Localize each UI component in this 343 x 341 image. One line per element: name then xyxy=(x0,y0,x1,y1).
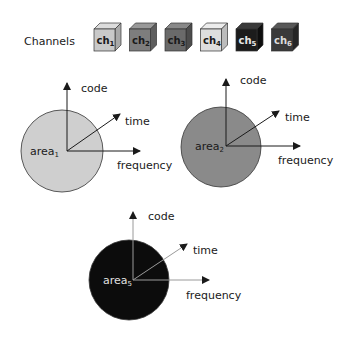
channels-label: Channels xyxy=(24,35,75,48)
channel-area-diagram: Channels ch1ch2ch3ch4ch5ch6 codetimefreq… xyxy=(0,0,343,341)
diagram-area-5: codetimefrequencyarea5 xyxy=(89,210,242,320)
channel-cube-4: ch4 xyxy=(201,23,228,51)
code-axis-label: code xyxy=(148,210,175,223)
area-diagrams: codetimefrequencyarea1codetimefrequencya… xyxy=(21,74,334,320)
code-axis-label: code xyxy=(240,74,267,87)
frequency-axis-label: frequency xyxy=(117,159,173,172)
time-axis-label: time xyxy=(285,111,310,124)
channel-cube-5: ch5 xyxy=(236,23,263,51)
channel-cube-2: ch2 xyxy=(130,23,157,51)
channel-cube-6: ch6 xyxy=(272,23,299,51)
channel-cubes: ch1ch2ch3ch4ch5ch6 xyxy=(94,23,299,51)
diagram-area-2: codetimefrequencyarea2 xyxy=(181,74,334,187)
frequency-axis-label: frequency xyxy=(278,154,334,167)
frequency-axis-label: frequency xyxy=(186,289,242,302)
channel-cube-3: ch3 xyxy=(165,23,192,51)
channel-cube-1: ch1 xyxy=(94,23,121,51)
diagram-area-1: codetimefrequencyarea1 xyxy=(21,82,173,192)
time-axis-label: time xyxy=(193,244,218,257)
code-axis-label: code xyxy=(81,82,108,95)
time-axis-label: time xyxy=(125,115,150,128)
